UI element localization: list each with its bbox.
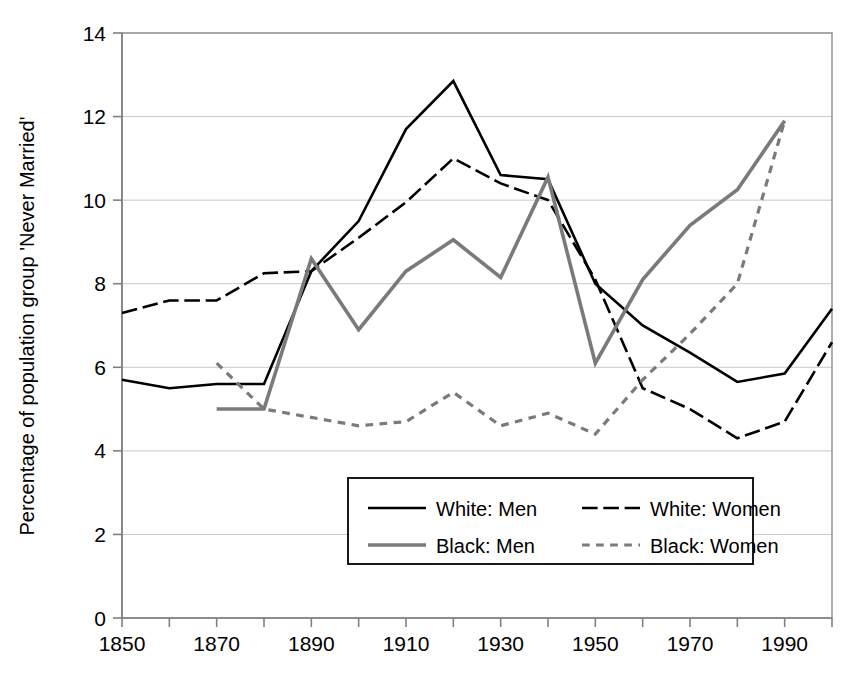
y-tick-label: 2 (94, 523, 106, 546)
legend-label: Black: Men (436, 535, 535, 557)
series-line-black-men (217, 121, 785, 409)
x-tick-label: 1870 (193, 632, 240, 655)
y-tick-label: 8 (94, 272, 106, 295)
series-lines (122, 81, 832, 438)
x-tick-label: 1950 (572, 632, 619, 655)
chart-legend: White: MenWhite: WomenBlack: MenBlack: W… (348, 478, 781, 564)
x-tick-label: 1930 (477, 632, 524, 655)
x-tick-label: 1910 (383, 632, 430, 655)
svg-text:Percentage of population group: Percentage of population group 'Never Ma… (16, 117, 38, 536)
x-axis: 18501870189019101930195019701990 (99, 618, 832, 655)
y-tick-label: 14 (83, 22, 107, 45)
line-chart: 02468101214 1850187018901910193019501970… (0, 0, 855, 681)
legend-label: White: Women (650, 498, 781, 520)
x-tick-label: 1990 (761, 632, 808, 655)
y-axis-title: Percentage of population group 'Never Ma… (16, 117, 38, 536)
x-tick-label: 1970 (667, 632, 714, 655)
legend-label: White: Men (436, 498, 537, 520)
legend-label: Black: Women (650, 535, 779, 557)
x-tick-label: 1890 (288, 632, 335, 655)
series-line-white-men (122, 81, 832, 388)
y-tick-label: 10 (83, 189, 106, 212)
x-tick-label: 1850 (99, 632, 146, 655)
gridlines (122, 33, 832, 534)
y-tick-label: 12 (83, 105, 106, 128)
y-tick-label: 0 (94, 607, 106, 630)
chart-figure: 02468101214 1850187018901910193019501970… (0, 0, 855, 681)
y-axis: 02468101214 (83, 22, 122, 630)
y-tick-label: 6 (94, 356, 106, 379)
y-tick-label: 4 (94, 439, 106, 462)
